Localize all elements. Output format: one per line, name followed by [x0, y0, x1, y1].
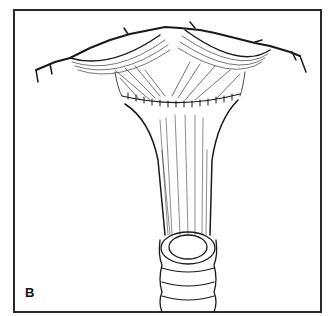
trachea-icon: [159, 232, 216, 312]
anatomical-illustration: [0, 0, 328, 316]
panel-label: B: [25, 285, 34, 300]
flap-top-edge: [36, 27, 300, 70]
muscle-stalk: [125, 100, 238, 235]
suture-line: [122, 94, 240, 103]
